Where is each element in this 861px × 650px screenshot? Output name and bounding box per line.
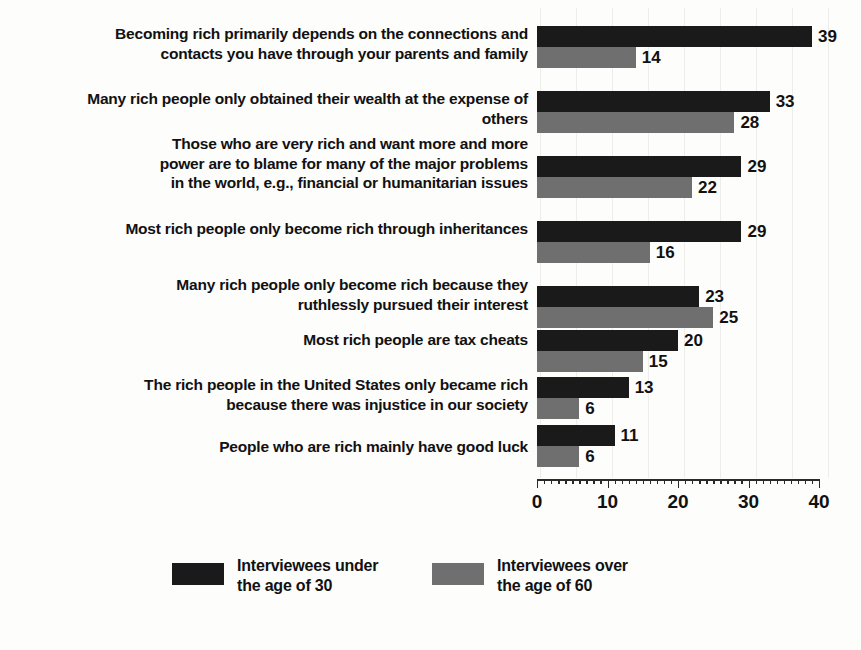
bar-value-label: 20 [684,330,703,351]
axis-tick-minor [544,479,545,484]
axis-tick-major [749,479,750,488]
axis-tick-minor [805,479,806,484]
x-axis: 010203040 [537,479,819,481]
category-label: Most rich people are tax cheats [58,330,528,350]
axis-tick-minor [741,479,742,484]
bar-value-label: 15 [649,351,668,372]
category-label: Many rich people only obtained their wea… [58,89,528,128]
bar-over-60 [537,112,734,133]
grid-line [684,8,685,478]
bar-value-label: 29 [747,156,766,177]
axis-tick-minor [615,479,616,484]
axis-tick-minor [551,479,552,484]
plot-area: Becoming rich primarily depends on the c… [0,0,861,520]
bar-over-60 [537,307,713,328]
legend-label-under-30: Interviewees under the age of 30 [237,556,378,596]
axis-tick-minor [692,479,693,484]
axis-tick-minor [600,479,601,484]
bar-value-label: 22 [698,177,717,198]
axis-tick-minor [664,479,665,484]
bar-over-60 [537,242,650,263]
category-label: The rich people in the United States onl… [58,375,528,414]
bar-value-label: 11 [621,425,639,446]
bar-value-label: 25 [719,307,738,328]
bar-under-30 [537,156,741,177]
bar-value-label: 13 [635,377,654,398]
bar-value-label: 6 [585,446,594,467]
bar-under-30 [537,221,741,242]
bar-value-label: 16 [656,242,675,263]
bar-under-30 [537,286,699,307]
axis-tick-minor [572,479,573,484]
category-label: Those who are very rich and want more an… [58,134,528,193]
bar-value-label: 23 [705,286,724,307]
grid-line [756,8,757,478]
axis-tick-minor [812,479,813,484]
axis-tick-minor [622,479,623,484]
bar-under-30 [537,330,678,351]
category-label: People who are rich mainly have good luc… [58,437,528,457]
bar-value-label: 29 [747,221,766,242]
axis-tick-minor [558,479,559,484]
axis-tick-minor [727,479,728,484]
bar-value-label: 6 [585,398,594,419]
legend-swatch-over-60 [432,563,484,585]
grid-line [828,8,829,478]
axis-tick-label: 30 [738,491,759,513]
grid-line [792,8,793,478]
bar-over-60 [537,398,579,419]
category-label: Many rich people only become rich becaus… [58,275,528,314]
bar-under-30 [537,26,812,47]
axis-tick-minor [699,479,700,484]
axis-tick-minor [671,479,672,484]
legend-item-under-30: Interviewees under the age of 30 [172,556,378,596]
axis-tick-minor [784,479,785,484]
axis-tick-minor [586,479,587,484]
bar-over-60 [537,351,643,372]
axis-tick-minor [756,479,757,484]
axis-tick-minor [770,479,771,484]
axis-tick-major [608,479,609,488]
axis-tick-minor [685,479,686,484]
bar-value-label: 33 [776,91,795,112]
axis-tick-major [678,479,679,488]
bar-over-60 [537,177,692,198]
bar-chart: Becoming rich primarily depends on the c… [0,0,861,650]
axis-tick-minor [734,479,735,484]
axis-tick-minor [565,479,566,484]
bar-under-30 [537,425,615,446]
axis-tick-minor [593,479,594,484]
chart-legend: Interviewees under the age of 30 Intervi… [0,556,861,636]
axis-tick-minor [798,479,799,484]
bar-over-60 [537,446,579,467]
axis-tick-minor [791,479,792,484]
axis-tick-minor [629,479,630,484]
bar-under-30 [537,377,629,398]
bar-value-label: 28 [740,112,759,133]
category-label: Becoming rich primarily depends on the c… [58,24,528,63]
bar-over-60 [537,47,636,68]
axis-tick-label: 10 [597,491,618,513]
axis-tick-label: 20 [667,491,688,513]
legend-item-over-60: Interviewees over the age of 60 [432,556,628,596]
bar-under-30 [537,91,770,112]
axis-tick-major [537,479,538,488]
axis-tick-minor [763,479,764,484]
axis-tick-label: 40 [808,491,829,513]
axis-tick-minor [777,479,778,484]
grid-line [720,8,721,478]
axis-tick-minor [657,479,658,484]
legend-swatch-under-30 [172,563,224,585]
axis-tick-minor [713,479,714,484]
axis-tick-minor [643,479,644,484]
axis-tick-minor [636,479,637,484]
axis-tick-label: 0 [532,491,543,513]
axis-tick-minor [650,479,651,484]
axis-tick-minor [579,479,580,484]
axis-tick-minor [706,479,707,484]
bar-value-label: 14 [642,47,661,68]
bar-value-label: 39 [818,26,837,47]
legend-label-over-60: Interviewees over the age of 60 [497,556,628,596]
category-label: Most rich people only become rich throug… [58,219,528,239]
axis-tick-major [819,479,820,488]
